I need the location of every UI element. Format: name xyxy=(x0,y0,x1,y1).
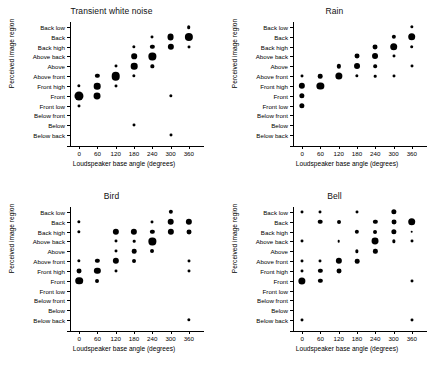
data-point xyxy=(373,220,377,224)
data-point xyxy=(149,238,156,245)
y-tick-label: Front high xyxy=(260,267,288,274)
data-point xyxy=(355,259,360,264)
x-tick-label: 180 xyxy=(129,150,139,157)
y-tick-label: Front low xyxy=(263,102,288,109)
x-tick-label: 360 xyxy=(184,150,194,157)
data-point xyxy=(301,260,304,263)
x-tick-label: 0 xyxy=(77,150,80,157)
x-tick-mark xyxy=(357,146,358,149)
y-tick-label: Back low xyxy=(40,23,65,30)
data-point xyxy=(373,230,377,234)
x-tick-mark xyxy=(320,146,321,149)
data-point xyxy=(372,238,379,245)
x-tick-mark xyxy=(134,331,135,334)
data-point xyxy=(355,54,360,59)
x-tick-label: 120 xyxy=(334,335,344,342)
x-tick-label: 60 xyxy=(94,335,101,342)
data-point xyxy=(151,220,154,223)
y-tick-label: Back low xyxy=(263,208,288,215)
x-tick-mark xyxy=(394,146,395,149)
data-point xyxy=(111,72,120,81)
data-point xyxy=(75,277,83,285)
data-point xyxy=(77,259,80,262)
panel-transient-white-noise: Transient white noiseBack lowBackBack hi… xyxy=(0,0,223,185)
y-tick-label: Back xyxy=(51,33,65,40)
x-tick-label: 360 xyxy=(407,150,417,157)
data-point xyxy=(187,25,191,29)
data-point xyxy=(373,44,378,49)
data-point xyxy=(114,250,117,253)
data-point xyxy=(336,268,341,273)
data-point xyxy=(187,318,190,321)
data-point xyxy=(114,84,117,87)
x-tick-mark xyxy=(412,331,413,334)
data-point xyxy=(94,92,101,99)
data-point xyxy=(151,35,154,38)
data-point xyxy=(133,124,136,127)
data-point xyxy=(150,44,154,48)
data-point xyxy=(411,230,414,233)
x-tick-mark xyxy=(171,146,172,149)
x-tick-mark xyxy=(375,331,376,334)
y-axis-title: Perceived image region xyxy=(8,0,15,109)
y-tick-label: Back high xyxy=(38,43,65,50)
y-tick-label: Back xyxy=(51,218,65,225)
panel-bird: BirdBack lowBackBack highAbove backAbove… xyxy=(0,185,223,370)
data-point xyxy=(355,229,359,233)
data-point xyxy=(113,228,119,234)
y-tick-label: Above front xyxy=(33,258,65,265)
data-point xyxy=(337,220,341,224)
x-tick-label: 120 xyxy=(334,150,344,157)
x-tick-label: 240 xyxy=(147,150,157,157)
y-tick-label: Above xyxy=(47,63,65,70)
data-point xyxy=(131,54,137,60)
x-tick-mark xyxy=(116,146,117,149)
data-point xyxy=(337,240,340,243)
plot-area xyxy=(70,207,198,325)
y-tick-label: Back low xyxy=(40,208,65,215)
x-tick-mark xyxy=(79,146,80,149)
x-tick-mark xyxy=(189,331,190,334)
data-point xyxy=(355,250,358,253)
plot-area xyxy=(293,22,421,140)
data-point xyxy=(167,43,173,49)
data-point xyxy=(317,82,324,89)
data-point xyxy=(94,268,100,274)
data-point xyxy=(185,33,193,41)
data-point xyxy=(300,93,305,98)
y-tick-label: Front xyxy=(274,92,288,99)
y-tick-label: Back xyxy=(274,33,288,40)
plot-area xyxy=(70,22,198,140)
y-tick-label: Back high xyxy=(261,43,288,50)
data-point xyxy=(319,210,322,213)
data-point xyxy=(114,269,117,272)
data-point xyxy=(410,319,413,322)
x-tick-mark xyxy=(116,331,117,334)
data-point xyxy=(391,35,395,39)
x-tick-mark xyxy=(171,331,172,334)
y-tick-label: Front xyxy=(51,92,65,99)
data-point xyxy=(187,269,190,272)
x-tick-mark xyxy=(375,146,376,149)
x-axis-title: Loudspeaker base angle (degrees) xyxy=(34,345,214,352)
data-point xyxy=(372,53,378,59)
data-point xyxy=(150,229,154,233)
data-point xyxy=(167,218,174,225)
data-point xyxy=(319,260,322,263)
data-point xyxy=(373,249,377,253)
x-tick-label: 240 xyxy=(370,335,380,342)
y-tick-label: Below xyxy=(271,122,288,129)
data-point xyxy=(335,72,342,79)
data-point xyxy=(337,64,341,68)
x-tick-mark xyxy=(97,331,98,334)
x-tick-label: 300 xyxy=(388,150,398,157)
four-panel-scatter-figure: Transient white noiseBack lowBackBack hi… xyxy=(0,0,446,370)
data-point xyxy=(301,319,304,322)
x-tick-mark xyxy=(302,331,303,334)
x-tick-mark xyxy=(97,146,98,149)
x-tick-label: 60 xyxy=(317,335,324,342)
x-tick-mark xyxy=(394,331,395,334)
data-point xyxy=(95,279,99,283)
x-tick-label: 360 xyxy=(407,335,417,342)
y-tick-label: Above back xyxy=(33,238,65,245)
